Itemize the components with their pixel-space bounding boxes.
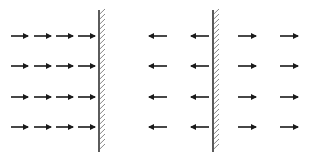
diagram-canvas <box>0 0 313 162</box>
arrows-group <box>11 36 298 127</box>
right-wall <box>213 9 219 152</box>
left-wall <box>99 9 105 152</box>
walls-group <box>99 9 219 152</box>
